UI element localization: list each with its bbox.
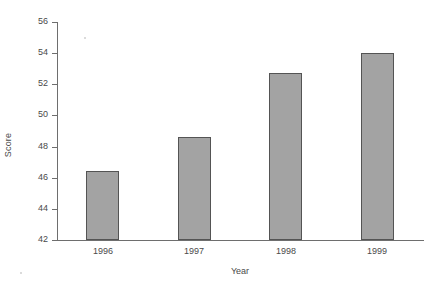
y-axis-tick-label-text: 42 [26,235,48,244]
y-axis-tick-label-text: 50 [26,110,48,119]
y-axis-tick [52,209,57,210]
y-axis-line [57,22,58,241]
y-axis-title: Score [0,0,16,290]
y-axis-tick-label-text: 52 [26,79,48,88]
y-axis-tick-label: 52 [24,79,48,88]
y-axis-tick-label: 50 [24,110,48,119]
y-axis-tick-label-text: 56 [26,17,48,26]
y-axis-tick-label-text: 48 [26,142,48,151]
x-axis-tick-label: 1998 [256,246,316,257]
y-axis-tick-label: 54 [24,48,48,57]
scan-speck-icon [84,37,86,39]
bar [86,171,119,240]
bar [178,137,211,240]
y-axis-tick [52,22,57,23]
y-axis-tick [52,147,57,148]
x-axis-tick-label: 1996 [73,246,133,257]
bar [269,73,302,240]
y-axis-tick-label-text: 46 [26,173,48,182]
scan-speck-icon [20,272,22,274]
y-axis-tick-label: 56 [24,17,48,26]
x-axis-tick-label: 1999 [347,246,407,257]
y-axis-tick-label: 48 [24,142,48,151]
y-axis-tick [52,178,57,179]
y-axis-tick-label: 44 [24,204,48,213]
bar-chart: Score 4244464850525456 1996199719981999 … [0,0,430,290]
x-axis-title: Year [57,266,423,277]
y-axis-tick-label-text: 44 [26,204,48,213]
y-axis-tick-label-text: 54 [26,48,48,57]
y-axis-tick [52,84,57,85]
y-axis-tick [52,240,57,241]
x-axis-line [57,240,424,241]
x-axis-tick-label: 1997 [164,246,224,257]
bar [361,53,394,240]
y-axis-tick [52,115,57,116]
y-axis-tick-label: 42 [24,235,48,244]
y-axis-tick [52,53,57,54]
y-axis-tick-label: 46 [24,173,48,182]
